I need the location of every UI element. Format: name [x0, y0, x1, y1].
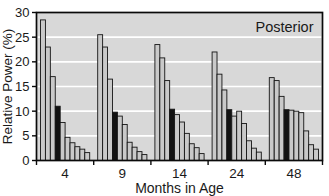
bar-age24-rank10	[256, 152, 261, 160]
bar-age14-rank9	[194, 148, 199, 161]
bar-age14-rank6	[180, 122, 185, 160]
bar-age14-rank1	[155, 45, 160, 161]
bar-age48-rank3	[279, 96, 284, 160]
x-category-label-14: 14	[172, 166, 188, 181]
bar-age24-rank6	[237, 111, 242, 160]
bar-age4-rank7	[70, 143, 75, 161]
bar-age14-rank7	[184, 133, 189, 160]
bar-age9-rank2	[103, 47, 108, 160]
y-axis-label: Relative Power (%)	[0, 29, 15, 145]
bar-age9-rank5	[117, 116, 122, 160]
y-tick-label-15: 15	[15, 79, 29, 94]
bar-age48-rank6	[294, 111, 299, 160]
bar-age24-rank1	[212, 52, 217, 161]
bar-age9-rank6	[122, 124, 127, 160]
bar-age4-rank6	[65, 137, 70, 160]
bar-age4-rank4	[55, 106, 60, 160]
bar-age48-rank8	[304, 131, 309, 161]
chart-title: Posterior	[255, 19, 313, 35]
x-axis-label: Months in Age	[135, 180, 224, 196]
bar-age48-rank5	[289, 110, 294, 160]
bar-age9-rank7	[127, 142, 132, 160]
bar-age24-rank8	[247, 141, 252, 161]
bar-age48-rank9	[309, 145, 314, 161]
y-tick-label-30: 30	[15, 5, 29, 20]
y-tick-label-5: 5	[22, 128, 29, 143]
x-category-label-24: 24	[229, 166, 245, 181]
plot-svg: 05101520253049142448Months in AgeRelativ…	[0, 0, 329, 196]
bar-age24-rank5	[232, 116, 237, 160]
x-category-label-48: 48	[286, 166, 301, 181]
bar-age48-rank2	[274, 81, 279, 161]
y-tick-label-25: 25	[15, 30, 29, 45]
bar-age9-rank1	[98, 35, 103, 161]
bar-age24-rank9	[251, 148, 256, 160]
bar-age48-rank4	[284, 110, 289, 161]
y-tick-label-0: 0	[22, 153, 29, 168]
x-category-label-4: 4	[61, 166, 69, 181]
y-tick-label-20: 20	[15, 54, 29, 69]
bar-age24-rank7	[242, 124, 247, 161]
bar-age48-rank7	[299, 113, 304, 161]
bar-age14-rank8	[189, 144, 194, 161]
bar-age4-rank2	[45, 47, 50, 160]
bar-age9-rank4	[112, 112, 117, 160]
x-category-label-9: 9	[119, 166, 127, 181]
bar-age4-rank3	[50, 77, 55, 161]
bar-age4-rank5	[60, 123, 65, 161]
bar-age14-rank4	[170, 109, 175, 160]
bar-age4-rank9	[80, 149, 85, 160]
bar-age9-rank3	[108, 79, 113, 160]
relative-power-bar-chart: 05101520253049142448Months in AgeRelativ…	[0, 0, 329, 196]
bar-age9-rank8	[132, 147, 137, 160]
bar-age9-rank10	[142, 155, 147, 161]
bar-age14-rank2	[160, 58, 165, 161]
bar-age48-rank10	[314, 149, 319, 160]
y-tick-label-10: 10	[15, 104, 29, 119]
bar-age14-rank3	[165, 81, 170, 161]
bar-age14-rank5	[175, 115, 180, 161]
bar-age24-rank4	[227, 110, 232, 161]
bar-age4-rank10	[85, 153, 90, 161]
bar-age24-rank2	[217, 74, 222, 160]
bar-age4-rank8	[75, 147, 80, 161]
bar-age14-rank10	[199, 154, 204, 161]
bar-age4-rank1	[41, 20, 46, 161]
bar-age9-rank9	[137, 152, 142, 161]
bar-age24-rank3	[222, 90, 227, 161]
bar-age48-rank1	[269, 78, 274, 161]
